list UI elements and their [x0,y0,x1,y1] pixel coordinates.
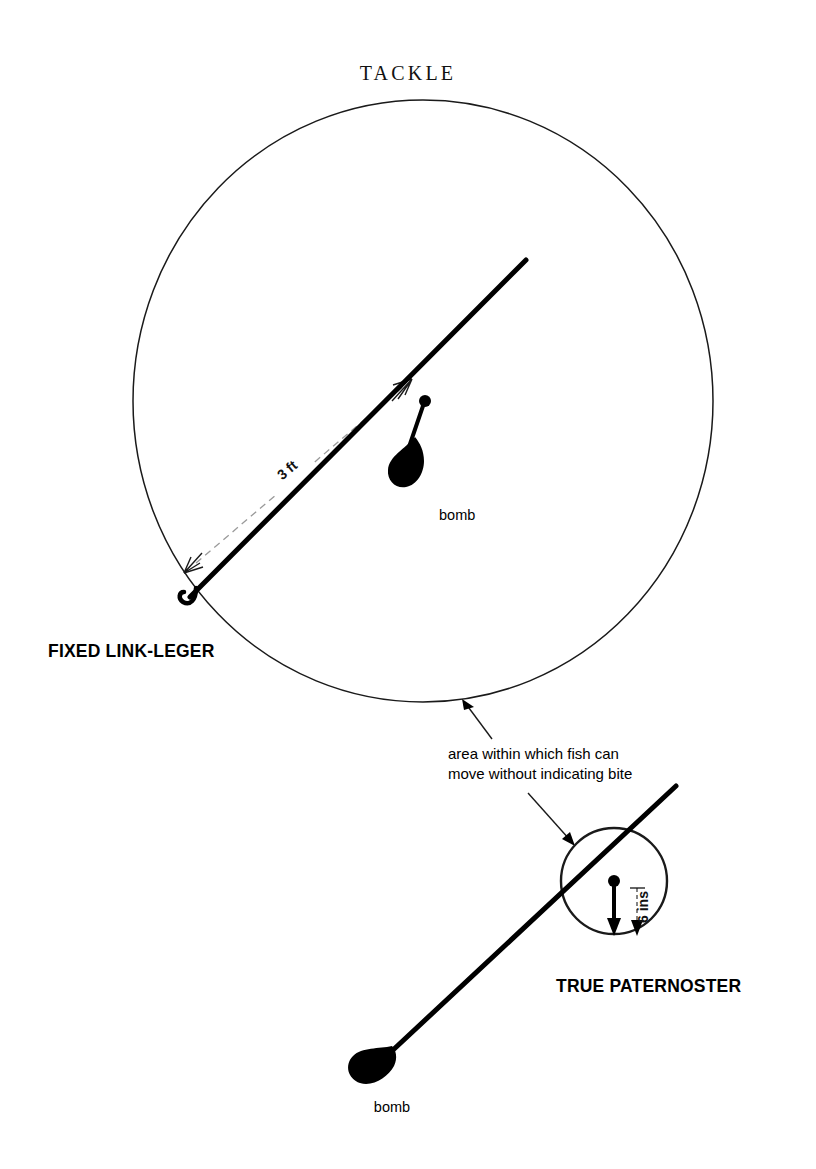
tackle-diagram-svg: TACKLE 3 ft [0,0,816,1169]
dimension-6ins-label: 6 ins [635,891,651,923]
true-paternoster-bomb-icon [348,1046,396,1084]
true-paternoster-bomb-label: bomb [374,1099,410,1115]
fixed-link-leger-bomb-label: bomb [439,507,475,523]
bomb-weight-icon [388,437,424,487]
true-paternoster-diagram: 6 ins TRUE PATERNOSTER bomb [348,786,741,1115]
dimension-6ins: 6 ins [607,884,651,936]
tackle-diagram-page: TACKLE 3 ft [0,0,816,1169]
annotation-arrowhead-upper [462,699,474,710]
annotation-arrow-to-large-circle [466,704,492,739]
area-annotation: area within which fish can move without … [448,699,632,846]
fixed-link-leger-diagram: 3 ft bomb FIXED LINK-LEGER [48,100,713,702]
annotation-line-1: area within which fish can [448,745,619,762]
page-title: TACKLE [360,62,456,84]
true-paternoster-heading: TRUE PATERNOSTER [556,976,741,996]
fixed-link-leger-junction-knot [419,395,431,407]
fixed-link-leger-bomb [388,403,424,487]
annotation-line-2: move without indicating bite [448,765,632,782]
fixed-link-leger-heading: FIXED LINK-LEGER [48,641,215,661]
fixed-link-leger-main-line [190,260,526,597]
true-paternoster-main-line [378,786,676,1064]
annotation-arrow-to-small-circle [528,793,570,840]
